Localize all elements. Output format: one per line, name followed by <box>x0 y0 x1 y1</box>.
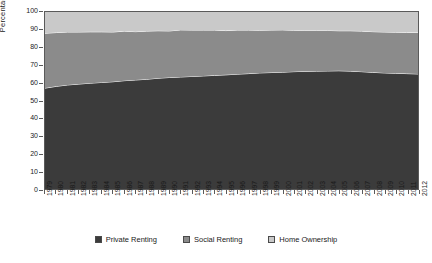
legend-label: Home Ownership <box>279 236 337 244</box>
x-tick-label: 1984 <box>104 181 111 196</box>
x-tick-label: 2009 <box>388 181 395 196</box>
x-tick-label: 2003 <box>320 181 327 196</box>
x-tick-mark <box>249 190 250 194</box>
x-tick-label: 2000 <box>286 181 293 196</box>
x-tick-label: 2002 <box>308 181 315 196</box>
x-tick-label: 1993 <box>206 181 213 196</box>
x-tick-mark <box>317 190 318 194</box>
x-tick-mark <box>294 190 295 194</box>
legend-item[interactable]: Home Ownership <box>268 236 337 244</box>
x-tick-mark <box>374 190 375 194</box>
x-tick-mark <box>192 190 193 194</box>
x-tick-label: 1992 <box>195 181 202 196</box>
x-axis-ticks: 1979198019811982198319841985198619871988… <box>0 0 432 263</box>
legend-label: Social Renting <box>194 236 242 244</box>
x-tick-mark <box>260 190 261 194</box>
x-tick-label: 2010 <box>399 181 406 196</box>
stacked-area-chart: Percentage 0102030405060708090100 197919… <box>0 0 432 263</box>
x-tick-mark <box>169 190 170 194</box>
x-tick-label: 1987 <box>138 181 145 196</box>
x-tick-label: 1989 <box>161 181 168 196</box>
legend-swatch-icon <box>268 236 275 243</box>
x-tick-mark <box>203 190 204 194</box>
x-tick-label: 1980 <box>58 181 65 196</box>
x-tick-mark <box>158 190 159 194</box>
x-tick-mark <box>351 190 352 194</box>
legend-swatch-icon <box>95 236 102 243</box>
x-tick-label: 2007 <box>365 181 372 196</box>
x-tick-label: 2012 <box>422 181 429 196</box>
x-tick-mark <box>328 190 329 194</box>
x-tick-label: 2005 <box>342 181 349 196</box>
x-tick-mark <box>78 190 79 194</box>
x-tick-label: 1979 <box>47 181 54 196</box>
x-tick-mark <box>67 190 68 194</box>
x-tick-mark <box>408 190 409 194</box>
x-tick-label: 1990 <box>172 181 179 196</box>
legend-swatch-icon <box>183 236 190 243</box>
x-tick-label: 1991 <box>183 181 190 196</box>
x-tick-mark <box>124 190 125 194</box>
x-tick-label: 2001 <box>297 181 304 196</box>
x-tick-label: 1985 <box>115 181 122 196</box>
x-tick-label: 1983 <box>92 181 99 196</box>
x-tick-label: 1995 <box>229 181 236 196</box>
x-tick-label: 1996 <box>240 181 247 196</box>
x-tick-label: 1998 <box>263 181 270 196</box>
x-tick-mark <box>283 190 284 194</box>
legend-label: Private Renting <box>106 236 157 244</box>
x-tick-label: 2011 <box>411 181 418 196</box>
legend-item[interactable]: Social Renting <box>183 236 242 244</box>
x-tick-label: 2008 <box>377 181 384 196</box>
x-tick-mark <box>101 190 102 194</box>
chart-legend: Private RentingSocial RentingHome Owners… <box>0 236 432 244</box>
x-tick-label: 1986 <box>127 181 134 196</box>
x-tick-label: 1988 <box>149 181 156 196</box>
legend-item[interactable]: Private Renting <box>95 236 157 244</box>
x-tick-mark <box>226 190 227 194</box>
x-tick-label: 1997 <box>252 181 259 196</box>
x-tick-mark <box>385 190 386 194</box>
x-tick-label: 1982 <box>81 181 88 196</box>
x-tick-label: 1981 <box>70 181 77 196</box>
x-tick-label: 1999 <box>274 181 281 196</box>
x-tick-label: 2004 <box>331 181 338 196</box>
x-tick-mark <box>135 190 136 194</box>
x-tick-mark <box>419 190 420 194</box>
x-tick-mark <box>44 190 45 194</box>
x-tick-label: 1994 <box>217 181 224 196</box>
x-tick-label: 2006 <box>354 181 361 196</box>
